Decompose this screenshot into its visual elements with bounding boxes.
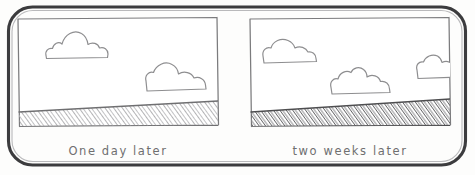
sketch-canvas: One day later two weeks later [0, 0, 475, 175]
sketch-figure: One day later two weeks later [0, 0, 475, 175]
panel-left-caption: One day later [68, 144, 167, 158]
panel-right-caption: two weeks later [292, 144, 407, 158]
